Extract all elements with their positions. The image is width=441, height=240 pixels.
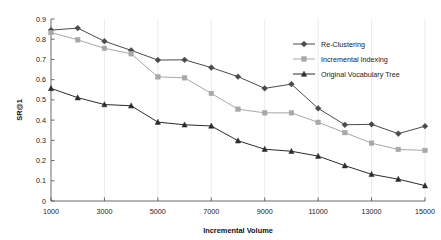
data-point-diamond bbox=[262, 85, 268, 91]
x-tick-label: 15000 bbox=[415, 207, 435, 216]
x-tick-label: 9000 bbox=[257, 207, 273, 216]
data-point-square bbox=[129, 51, 134, 56]
line-chart-plot: 00.10.20.30.40.50.60.70.80.9 10003000500… bbox=[0, 0, 441, 240]
series-line-2 bbox=[51, 88, 425, 185]
data-point-square bbox=[423, 148, 428, 153]
data-point-square bbox=[75, 38, 80, 43]
data-point-square bbox=[49, 30, 54, 35]
y-tick-label: 0.6 bbox=[36, 75, 46, 84]
legend-label-2: Original Vocabulary Tree bbox=[321, 70, 400, 79]
x-tick-label: 3000 bbox=[96, 207, 112, 216]
legend-label-0: Re-Clustering bbox=[321, 40, 365, 49]
data-point-diamond bbox=[208, 65, 214, 71]
data-point-triangle bbox=[48, 85, 53, 90]
x-tick-label: 7000 bbox=[203, 207, 219, 216]
y-tick-label: 0.8 bbox=[36, 35, 46, 44]
legend-label-1: Incremental Indexing bbox=[321, 55, 388, 64]
data-point-square bbox=[369, 141, 374, 146]
x-tick-label: 1000 bbox=[43, 207, 59, 216]
data-point-diamond bbox=[301, 41, 307, 47]
data-point-triangle bbox=[235, 138, 240, 143]
x-tick-label: 11000 bbox=[308, 207, 327, 216]
legend: Re-ClusteringIncremental IndexingOrigina… bbox=[293, 40, 400, 79]
chart-container: 00.10.20.30.40.50.60.70.80.9 10003000500… bbox=[0, 0, 441, 240]
y-tick-label: 0.7 bbox=[36, 55, 46, 64]
data-point-square bbox=[289, 111, 294, 116]
x-tick-labels: 10003000500070009000110001300015000 bbox=[43, 207, 435, 216]
y-tick-label: 0.5 bbox=[36, 95, 46, 104]
y-tick-labels: 00.10.20.30.40.50.60.70.80.9 bbox=[36, 15, 46, 206]
y-tick-label: 0.4 bbox=[36, 116, 46, 125]
data-point-square bbox=[209, 91, 214, 96]
y-tick-label: 0.2 bbox=[36, 156, 46, 165]
data-point-diamond bbox=[75, 25, 81, 31]
data-point-diamond bbox=[422, 123, 428, 129]
data-point-square bbox=[156, 75, 161, 80]
data-point-diamond bbox=[155, 57, 161, 63]
series-markers bbox=[48, 25, 428, 188]
x-tick-label: 13000 bbox=[362, 207, 382, 216]
data-point-diamond bbox=[102, 38, 108, 44]
y-tick-label: 0.9 bbox=[36, 15, 46, 24]
y-tick-label: 0 bbox=[42, 197, 46, 206]
data-point-square bbox=[102, 46, 107, 51]
y-axis-title: SR@1 bbox=[15, 99, 24, 121]
data-point-diamond bbox=[182, 57, 188, 63]
x-tick-label: 5000 bbox=[150, 207, 166, 216]
data-point-diamond bbox=[235, 74, 241, 80]
x-axis-title: Incremental Volume bbox=[203, 226, 273, 235]
grid-lines bbox=[104, 19, 425, 201]
series-line-1 bbox=[51, 33, 425, 151]
data-point-square bbox=[262, 111, 267, 116]
data-point-diamond bbox=[369, 121, 375, 127]
data-point-square bbox=[316, 120, 321, 125]
data-point-square bbox=[302, 57, 307, 62]
data-point-diamond bbox=[342, 122, 348, 128]
y-tick-label: 0.3 bbox=[36, 136, 46, 145]
data-point-square bbox=[236, 107, 241, 112]
series-line-0 bbox=[51, 28, 425, 134]
data-point-square bbox=[182, 76, 187, 81]
data-point-square bbox=[396, 147, 401, 152]
data-point-diamond bbox=[395, 131, 401, 137]
y-tick-label: 0.1 bbox=[36, 176, 46, 185]
data-point-square bbox=[343, 130, 348, 135]
